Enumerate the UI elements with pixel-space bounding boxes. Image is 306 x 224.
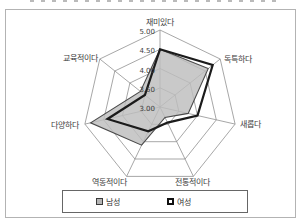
legend-label-male: 남성 (106, 196, 120, 207)
male-series-swatch-icon (96, 198, 103, 205)
axis-label-3: 전통적이다 (175, 177, 211, 187)
scale-tick-label: 5.00 (139, 28, 155, 36)
axis-label-1: 독특하다 (224, 54, 253, 64)
axis-label-0: 재미있다 (146, 17, 175, 27)
scale-tick-label: 3.50 (139, 86, 155, 94)
axis-label-4: 역동적이다 (92, 177, 128, 187)
chart-panel: 5.004.504.003.503.00재미있다독특하다새롭다전통적이다역동적이… (5, 9, 296, 218)
axis-label-6: 교육적이다 (63, 53, 99, 63)
axis-label-2: 새롭다 (240, 120, 262, 129)
axis-label-5: 다양하다 (51, 120, 80, 130)
female-series-swatch-icon (167, 198, 174, 205)
scale-tick-label: 4.00 (139, 67, 155, 75)
scale-tick-label: 4.50 (139, 47, 155, 55)
legend-label-female: 여성 (177, 196, 191, 207)
radar-chart: 5.004.504.003.503.00재미있다독특하다새롭다전통적이다역동적이… (6, 10, 295, 188)
cropped-title-remnant (30, 0, 280, 2)
scale-tick-label: 3.00 (139, 105, 155, 113)
legend-item-male: 남성 (96, 196, 120, 207)
legend-item-female: 여성 (167, 196, 191, 207)
chart-legend: 남성 여성 (62, 190, 248, 213)
